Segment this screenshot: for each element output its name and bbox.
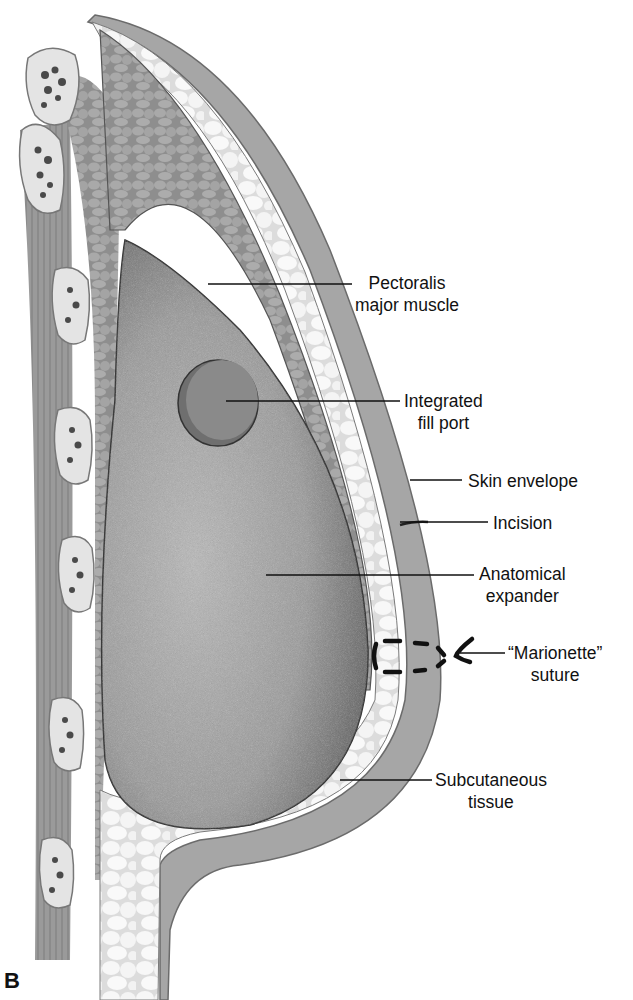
label-incision: Incision [493,512,552,534]
label-marionette-suture: “Marionette” suture [508,642,602,686]
label-anatomical-expander: Anatomical expander [479,563,566,607]
label-pectoralis-major-muscle: Pectoralis major muscle [355,272,459,316]
label-subcutaneous-tissue: Subcutaneous tissue [435,769,547,813]
panel-letter: B [4,968,20,994]
label-skin-envelope: Skin envelope [468,470,578,492]
label-integrated-fill-port: Integrated fill port [404,390,483,434]
anatomical-illustration [0,0,633,1000]
